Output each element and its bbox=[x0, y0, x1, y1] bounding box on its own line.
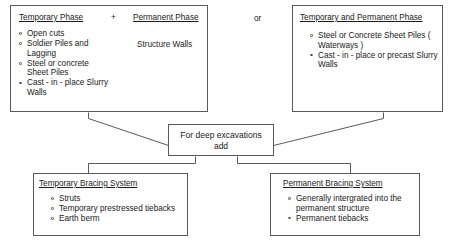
list-item: Steel or concrete Sheet Piles bbox=[19, 59, 109, 78]
list-item: Earth berm bbox=[51, 214, 183, 224]
list-item: Struts bbox=[51, 194, 183, 204]
list-item: Soldier Piles and Lagging bbox=[19, 39, 109, 58]
list-item: Generally intergrated into the permanent… bbox=[288, 194, 416, 213]
temporary-and-permanent-phase-heading: Temporary and Permanent Phase bbox=[300, 13, 422, 23]
temporary-bracing-system-list: Struts Temporary prestressed tiebacks Ea… bbox=[51, 194, 183, 224]
bottom-left-box: Temporary Bracing System Struts Temporar… bbox=[33, 173, 188, 236]
list-item: Cast - in - place Slurry Walls bbox=[19, 78, 109, 97]
temporary-and-permanent-phase-list: Steel or Concrete Sheet Piles ( Waterway… bbox=[310, 31, 438, 70]
middle-box-line1: For deep excavations bbox=[169, 130, 273, 141]
top-right-box: Temporary and Permanent Phase Steel or C… bbox=[292, 5, 443, 112]
list-item: Steel or Concrete Sheet Piles ( Waterway… bbox=[310, 31, 438, 50]
temporary-bracing-system-heading: Temporary Bracing System bbox=[39, 179, 137, 189]
top-left-box: Temporary Phase + Permanent Phase Open c… bbox=[10, 5, 208, 112]
middle-box: For deep excavations add bbox=[168, 124, 274, 156]
temporary-phase-list: Open cuts Soldier Piles and Lagging Stee… bbox=[19, 29, 109, 98]
or-label: or bbox=[254, 14, 261, 24]
structure-walls-text: Structure Walls bbox=[137, 40, 192, 50]
connector-topright-to-middle bbox=[274, 113, 384, 146]
permanent-bracing-system-heading: Permanent Bracing System bbox=[283, 179, 383, 189]
list-item: Temporary prestressed tiebacks bbox=[51, 204, 183, 214]
list-item: Open cuts bbox=[19, 29, 109, 39]
connector-middle-to-bottomleft bbox=[89, 157, 196, 174]
temporary-phase-heading: Temporary Phase bbox=[19, 13, 83, 23]
diagram-canvas: Temporary Phase + Permanent Phase Open c… bbox=[0, 0, 449, 246]
permanent-phase-heading: Permanent Phase bbox=[133, 13, 199, 23]
connector-topleft-to-middle bbox=[89, 113, 169, 146]
permanent-bracing-system-list: Generally intergrated into the permanent… bbox=[288, 194, 416, 224]
list-item: Permanent tiebacks bbox=[288, 214, 416, 224]
connector-middle-to-bottomright bbox=[238, 157, 351, 174]
plus-symbol: + bbox=[111, 13, 116, 23]
bottom-right-box: Permanent Bracing System Generally inter… bbox=[270, 173, 420, 236]
middle-box-line2: add bbox=[169, 141, 273, 152]
list-item: Cast - in - place or precast Slurry Wall… bbox=[310, 51, 438, 70]
